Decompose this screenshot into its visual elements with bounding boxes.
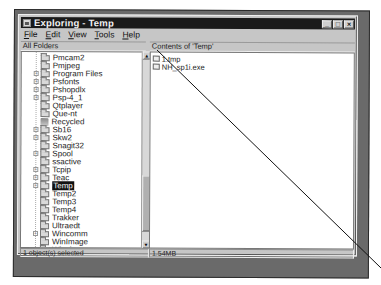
expand-plus-icon[interactable]: + <box>33 151 38 156</box>
explorer-window: Exploring - Temp _ □ × File Edit View To… <box>17 14 358 256</box>
menu-view[interactable]: View <box>68 29 86 39</box>
menu-help[interactable]: Help <box>122 29 140 39</box>
explorer-app-icon[interactable] <box>23 19 31 27</box>
menu-file[interactable]: File <box>24 29 38 39</box>
menu-edit[interactable]: Edit <box>46 29 61 39</box>
minimize-button[interactable]: _ <box>322 20 332 28</box>
file-item[interactable]: NH_sp1i.exe <box>153 63 205 71</box>
close-button[interactable]: × <box>344 20 354 28</box>
expand-plus-icon[interactable]: + <box>33 127 38 132</box>
all-folders-header: All Folders <box>21 41 146 52</box>
expand-plus-icon[interactable]: + <box>33 167 38 172</box>
status-selection: 1 object(s) selected <box>20 248 149 258</box>
expand-plus-icon[interactable]: + <box>33 231 38 236</box>
outer-photo-frame: Exploring - Temp _ □ × File Edit View To… <box>13 9 370 279</box>
expand-plus-icon[interactable]: + <box>33 183 38 188</box>
title-bar[interactable]: Exploring - Temp _ □ × <box>21 17 355 29</box>
expand-plus-icon[interactable]: + <box>34 79 39 84</box>
window-title: Exploring - Temp <box>34 17 114 28</box>
expand-plus-icon[interactable]: + <box>33 135 38 140</box>
menu-tools[interactable]: Tools <box>95 29 115 39</box>
menu-bar: File Edit View Tools Help <box>21 29 355 40</box>
expand-plus-icon[interactable]: + <box>34 87 39 92</box>
expand-plus-icon[interactable]: + <box>34 71 39 76</box>
status-size: 1.54MB <box>149 249 354 259</box>
maximize-button[interactable]: □ <box>333 20 343 28</box>
file-name: NH_sp1i.exe <box>162 62 205 71</box>
status-bar: 1 object(s) selected 1.54MB <box>20 248 354 257</box>
folder-icon <box>41 111 50 117</box>
file-icon <box>153 56 160 62</box>
folder-tree[interactable]: Pmcam2Pmjpeg+Program Files+Psfonts+Pshop… <box>20 51 143 249</box>
contents-pane[interactable]: 1.tmpNH_sp1i.exe <box>149 52 355 250</box>
expand-plus-icon[interactable]: + <box>33 175 38 180</box>
expand-plus-icon[interactable]: + <box>34 95 39 100</box>
file-icon <box>153 64 160 70</box>
